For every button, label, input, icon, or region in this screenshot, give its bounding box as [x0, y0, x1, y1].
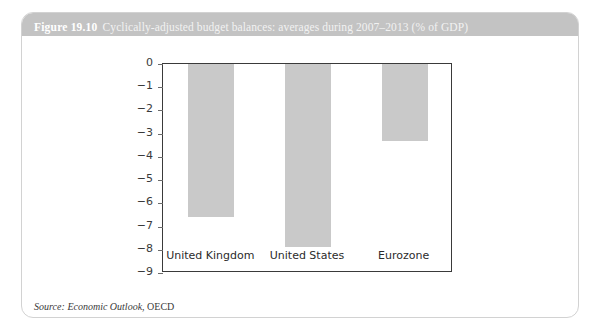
y-axis-tick-mark [158, 227, 163, 228]
figure-caption-band: Figure 19.10Cyclically-adjusted budget b… [22, 13, 579, 36]
y-axis-tick-mark [158, 87, 163, 88]
y-axis-tick-label: −9 [137, 265, 153, 278]
source-label: Source: [34, 301, 65, 312]
bar [382, 64, 428, 141]
y-axis-tick-mark [158, 134, 163, 135]
figure-container: Figure 19.10Cyclically-adjusted budget b… [21, 12, 579, 318]
x-axis-category-label: United Kingdom [162, 249, 259, 262]
y-axis-tick-label: −8 [137, 242, 153, 255]
bar [188, 64, 234, 217]
y-axis-tick-label: −4 [137, 149, 153, 162]
chart-area: 0−1−2−3−4−5−6−7−8−9 United KingdomUnited… [22, 36, 579, 296]
y-axis-tick-label: −7 [137, 219, 153, 232]
y-axis-tick-label: −5 [137, 172, 153, 185]
x-axis-category-label: United States [259, 249, 356, 262]
figure-number: Figure 19.10 [34, 21, 98, 33]
y-axis-tick-mark [158, 203, 163, 204]
bar [285, 64, 331, 247]
y-axis-tick-label: −2 [137, 102, 153, 115]
source-organization: , OECD [142, 301, 174, 312]
y-axis-tick-mark [158, 180, 163, 181]
x-axis-category-label: Eurozone [355, 249, 452, 262]
y-axis-tick-mark [158, 110, 163, 111]
y-axis-tick-label: −3 [137, 126, 153, 139]
y-axis-tick-label: 0 [146, 56, 153, 69]
y-axis-tick-label: −1 [137, 79, 153, 92]
figure-title: Cyclically-adjusted budget balances: ave… [103, 21, 469, 33]
y-axis-tick-label: −6 [137, 195, 153, 208]
source-note: Source: Economic Outlook, OECD [34, 301, 174, 312]
plot-box: 0−1−2−3−4−5−6−7−8−9 [162, 63, 452, 272]
y-axis-tick-mark [158, 64, 163, 65]
source-publication: Economic Outlook [67, 301, 142, 312]
y-axis-tick-mark [158, 157, 163, 158]
y-axis-tick-mark [158, 273, 163, 274]
